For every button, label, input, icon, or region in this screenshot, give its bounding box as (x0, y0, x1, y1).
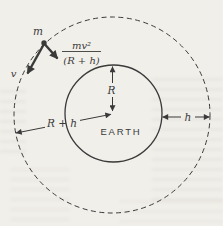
earth-label: EARTH (100, 126, 141, 137)
centripetal-force-denominator: (R + h) (63, 55, 100, 66)
mass-label: m (33, 25, 43, 37)
orbit-physics-figure: mv² (R + h) m v R R + h h EARTH (0, 0, 223, 226)
earth-radius-label: R (107, 84, 116, 96)
velocity-label: v (11, 68, 17, 79)
velocity-vector-arrow (28, 44, 45, 74)
centripetal-force-numerator: mv² (72, 40, 91, 51)
orbit-diagram: mv² (R + h) m v R R + h h EARTH (0, 0, 223, 226)
orbit-radius-label: R + h (46, 117, 77, 129)
centripetal-force-arrow (45, 45, 58, 59)
altitude-label: h (185, 111, 192, 123)
earth-circle (65, 65, 162, 162)
